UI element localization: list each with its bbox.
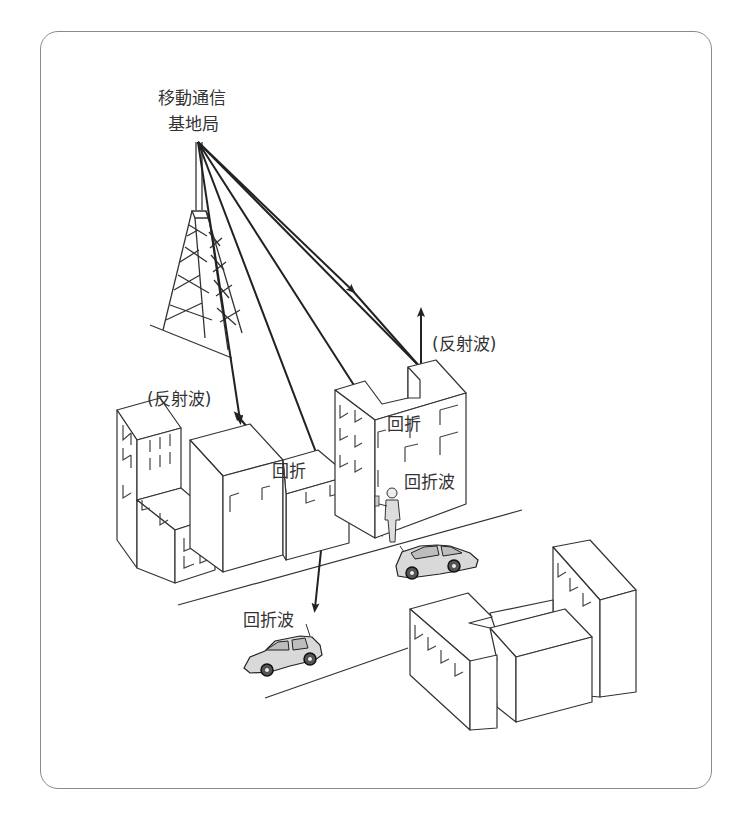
- reflected-wave-label-right: (反射波): [432, 334, 496, 354]
- diffraction-label-right: 回折: [387, 414, 421, 434]
- propagation-diagram: 移動通信 基地局 (反射波) (反射波) 回折 回折 回折波 回折波: [0, 0, 748, 828]
- diffracted-wave-label-bottom: 回折波: [243, 610, 294, 630]
- reflected-wave-label-left: (反射波): [147, 389, 211, 409]
- diffraction-label-center: 回折: [272, 461, 306, 481]
- car-near-pedestrian: [396, 545, 478, 579]
- base-station-label-line1: 移動通信: [158, 88, 226, 108]
- base-station-label-line2: 基地局: [168, 114, 219, 134]
- buildings-left-cluster: [117, 398, 349, 583]
- car-bottom-left: [244, 624, 322, 676]
- buildings-right-cluster: [335, 360, 466, 538]
- diffracted-wave-label-right: 回折波: [404, 472, 455, 492]
